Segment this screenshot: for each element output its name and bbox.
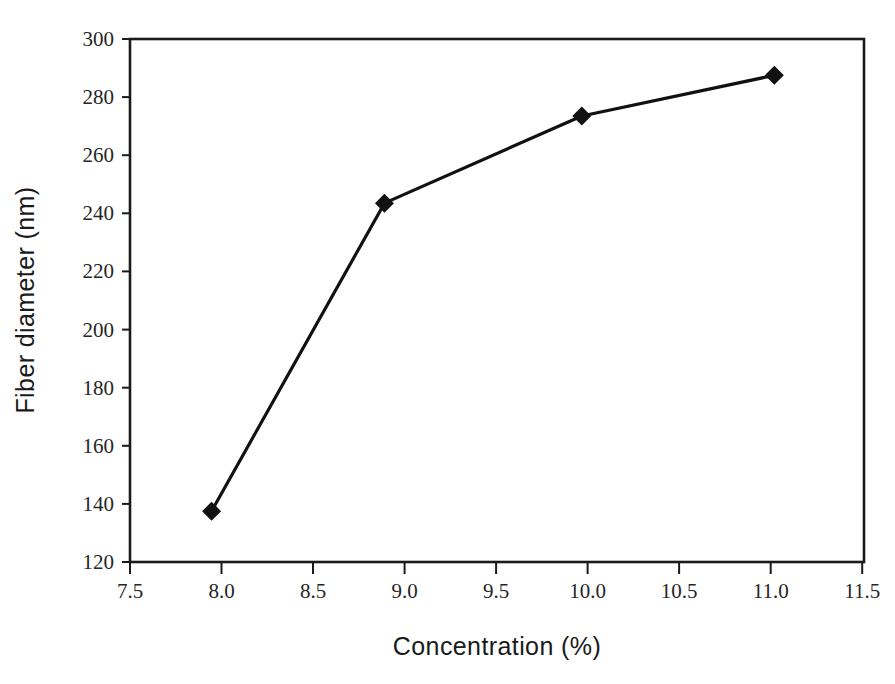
- y-tick-label-180: 180: [83, 376, 115, 400]
- x-axis-title: Concentration (%): [393, 632, 601, 660]
- y-tick-label-140: 140: [83, 492, 115, 516]
- x-tick-label-7-5: 7.5: [117, 579, 143, 603]
- y-tick-label-120: 120: [83, 550, 115, 574]
- x-tick-label-10-5: 10.5: [661, 579, 698, 603]
- x-tick-label-9-5: 9.5: [483, 579, 509, 603]
- y-tick-label-300: 300: [83, 27, 115, 51]
- x-axis-tick-labels: 7.5 8.0 8.5 9.0 9.5 10.0 10.5 11.0 11.5: [117, 579, 880, 603]
- x-tick-label-11-0: 11.0: [753, 579, 789, 603]
- y-tick-label-220: 220: [83, 259, 115, 283]
- x-tick-label-8-5: 8.5: [300, 579, 326, 603]
- y-tick-label-160: 160: [83, 434, 115, 458]
- y-tick-label-260: 260: [83, 143, 115, 167]
- fiber-diameter-vs-concentration-chart: 120 140 160 180 200 220 240 260 280 300 …: [0, 0, 895, 684]
- y-tick-label-240: 240: [83, 201, 115, 225]
- y-tick-label-200: 200: [83, 318, 115, 342]
- x-tick-label-8-0: 8.0: [208, 579, 234, 603]
- x-tick-label-10-0: 10.0: [569, 579, 606, 603]
- y-axis-title: Fiber diameter (nm): [11, 186, 39, 413]
- x-tick-label-11-5: 11.5: [844, 579, 880, 603]
- x-tick-label-9-0: 9.0: [391, 579, 417, 603]
- y-tick-label-280: 280: [83, 85, 115, 109]
- chart-page: 120 140 160 180 200 220 240 260 280 300 …: [0, 0, 895, 684]
